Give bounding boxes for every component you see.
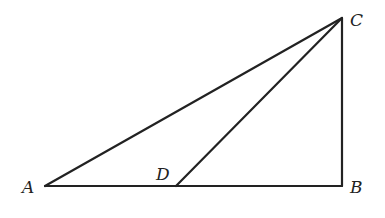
label-d: D bbox=[155, 164, 170, 184]
segment-ca bbox=[45, 18, 342, 186]
label-c: C bbox=[350, 10, 363, 30]
label-b: B bbox=[349, 177, 363, 197]
triangle-diagram: A D B C bbox=[0, 0, 385, 218]
diagram-canvas: A D B C bbox=[0, 0, 385, 218]
segment-cd bbox=[176, 18, 342, 186]
label-a: A bbox=[20, 177, 34, 197]
